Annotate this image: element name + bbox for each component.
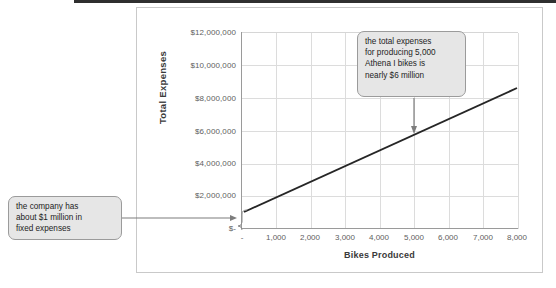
y-tick-label: $- xyxy=(229,224,236,233)
callout-line: about $1 million in xyxy=(16,212,115,223)
fixed-expenses-callout: the company has about $1 million in fixe… xyxy=(8,196,122,240)
gridline-vertical xyxy=(483,33,484,229)
x-tick-label: 3,000 xyxy=(335,233,355,242)
y-tick-label: $8,000,000 xyxy=(195,94,236,103)
x-tick-label: 4,000 xyxy=(369,233,389,242)
callout-line: nearly $6 million xyxy=(365,70,459,81)
gridline-vertical xyxy=(276,33,277,229)
y-tick-label: $6,000,000 xyxy=(195,127,236,136)
chart-screenshot: $12,000,000 $10,000,000 $8,000,000 $6,00… xyxy=(0,0,556,288)
x-tick-label: 2,000 xyxy=(300,233,320,242)
x-tick-label: 1,000 xyxy=(266,233,286,242)
x-axis-title: Bikes Produced xyxy=(241,250,518,260)
callout-line: for producing 5,000 xyxy=(365,47,459,58)
gridline-vertical xyxy=(518,33,519,229)
y-axis-line xyxy=(241,32,242,228)
callout-line: the company has xyxy=(16,201,115,212)
x-tick-label: 7,000 xyxy=(473,233,493,242)
callout-line: fixed expenses xyxy=(16,223,115,234)
x-tick-label: 8,000 xyxy=(507,233,527,242)
total-expenses-callout: the total expenses for producing 5,000 A… xyxy=(357,31,466,97)
gridline-vertical xyxy=(311,33,312,229)
y-tick-label: $4,000,000 xyxy=(195,159,236,168)
x-axis-line xyxy=(241,228,518,229)
y-tick-label: $12,000,000 xyxy=(190,28,236,37)
x-tick-label: 5,000 xyxy=(404,233,424,242)
x-tick-label: - xyxy=(241,233,244,242)
y-tick-label: $10,000,000 xyxy=(190,61,236,70)
y-axis-title: Total Expenses xyxy=(157,33,168,143)
y-tick-label: $2,000,000 xyxy=(195,191,236,200)
callout-line: the total expenses xyxy=(365,36,459,47)
top-strip-decoration xyxy=(0,0,556,3)
callout-line: Athena I bikes is xyxy=(365,58,459,69)
top-strip-gap xyxy=(0,0,74,3)
x-tick-label: 6,000 xyxy=(438,233,458,242)
gridline-vertical xyxy=(345,33,346,229)
